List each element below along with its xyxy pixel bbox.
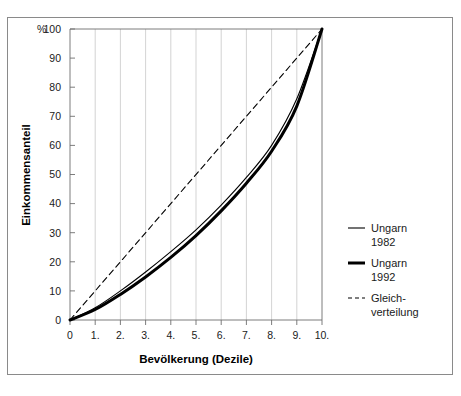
x-tick-label: 4.	[166, 329, 175, 341]
y-tick-label: 30	[49, 227, 61, 239]
y-tick-label: 10	[49, 285, 61, 297]
y-tick-label: 80	[49, 81, 61, 93]
x-tick-label: 7.	[242, 329, 251, 341]
legend-label-line1: Ungarn	[371, 257, 407, 269]
legend-label-line1: Ungarn	[371, 222, 407, 234]
y-tick-label: 90	[49, 52, 61, 64]
x-axis-tick-labels: 01.2.3.4.5.6.7.8.9.10.	[67, 329, 329, 341]
legend-label-line2: 1992	[371, 271, 395, 283]
legend-label-line2: 1982	[371, 236, 395, 248]
x-tick-label: 9.	[292, 329, 301, 341]
x-tick-label: 5.	[192, 329, 201, 341]
lorenz-curve-chart: 0102030405060708090100 % 01.2.3.4.5.6.7.…	[0, 0, 461, 396]
y-axis-tick-labels: 0102030405060708090100	[43, 23, 61, 326]
y-tick-label: 0	[55, 314, 61, 326]
chart-legend: Ungarn1982Ungarn1992Gleich-verteilung	[348, 222, 419, 318]
y-axis-title: Einkommensanteil	[20, 124, 32, 226]
x-tick-label: 3.	[141, 329, 150, 341]
y-tick-label: 40	[49, 197, 61, 209]
y-tick-label: 70	[49, 110, 61, 122]
x-axis-ticks	[70, 320, 322, 325]
legend-label-line2: verteilung	[371, 306, 419, 318]
x-tick-label: 0	[67, 329, 73, 341]
y-tick-label: 50	[49, 168, 61, 180]
y-axis-percent-symbol: %	[37, 23, 46, 35]
x-tick-label: 10.	[315, 329, 330, 341]
x-axis-title: Bevölkerung (Dezile)	[139, 353, 253, 365]
x-tick-label: 2.	[116, 329, 125, 341]
legend-label-line1: Gleich-	[371, 292, 406, 304]
y-tick-label: 20	[49, 256, 61, 268]
x-tick-label: 6.	[217, 329, 226, 341]
x-tick-label: 1.	[91, 329, 100, 341]
chart-svg: 0102030405060708090100 % 01.2.3.4.5.6.7.…	[0, 0, 461, 396]
x-tick-label: 8.	[267, 329, 276, 341]
y-tick-label: 60	[49, 139, 61, 151]
